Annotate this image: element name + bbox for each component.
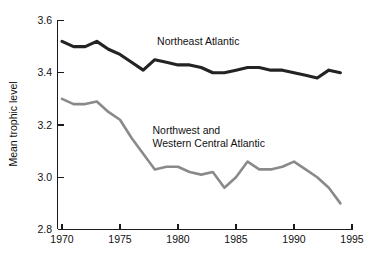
series-line-northwest-western-central-atlantic bbox=[62, 99, 340, 204]
northwest-western-central-atlantic-label-line1: Northwest and bbox=[153, 124, 221, 136]
x-tick-labels: 1970 1975 1980 1985 1990 1995 bbox=[50, 233, 364, 245]
y-tick-label-4: 3.6 bbox=[37, 14, 52, 26]
line-chart: 2.8 3.0 3.2 3.4 3.6 1970 1975 1980 1985 … bbox=[0, 0, 383, 262]
northeast-atlantic-label: Northeast Atlantic bbox=[157, 35, 239, 47]
northwest-western-central-atlantic-label-line2: Western Central Atlantic bbox=[153, 137, 265, 149]
y-tick-label-3: 3.4 bbox=[37, 66, 52, 78]
x-tick-label-3: 1985 bbox=[224, 233, 248, 245]
y-tick-labels: 2.8 3.0 3.2 3.4 3.6 bbox=[37, 14, 52, 235]
x-tick-label-2: 1980 bbox=[166, 233, 190, 245]
x-tick-marks bbox=[62, 224, 352, 230]
x-tick-label-5: 1995 bbox=[340, 233, 364, 245]
series-annotations: Northeast Atlantic Northwest and Western… bbox=[153, 35, 265, 148]
y-axis-title: Mean trophic level bbox=[7, 81, 19, 166]
y-tick-marks bbox=[58, 21, 65, 230]
x-tick-label-0: 1970 bbox=[50, 233, 74, 245]
x-tick-label-1: 1975 bbox=[108, 233, 132, 245]
y-tick-label-2: 3.2 bbox=[37, 119, 52, 131]
x-tick-label-4: 1990 bbox=[282, 233, 306, 245]
y-tick-label-1: 3.0 bbox=[37, 171, 52, 183]
chart-container: 2.8 3.0 3.2 3.4 3.6 1970 1975 1980 1985 … bbox=[0, 0, 383, 262]
